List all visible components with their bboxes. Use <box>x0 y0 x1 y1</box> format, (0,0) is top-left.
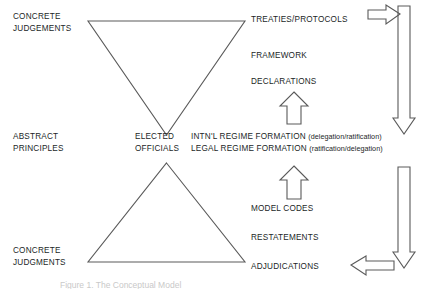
figure-canvas: CONCRETE JUDGEMENTS ABSTRACT PRINCIPLES … <box>0 0 428 289</box>
left-label-abstract-principles: ABSTRACT PRINCIPLES <box>13 131 64 154</box>
left-label-concrete-judgments-line1: CONCRETE <box>13 245 66 257</box>
figure-caption: Figure 1. The Conceptual Model <box>60 280 181 289</box>
middle-row-intnl-regime-formation: INTN'L REGIME FORMATION (delegation/rati… <box>191 131 382 143</box>
left-label-concrete-judgements: CONCRETE JUDGEMENTS <box>13 11 71 34</box>
right-item-treaties-protocols: TREATIES/PROTOCOLS <box>251 14 348 25</box>
lower-upright-triangle <box>88 163 245 262</box>
left-label-abstract-principles-line1: ABSTRACT <box>13 131 64 143</box>
left-label-concrete-judgments-line2: JUDGMENTS <box>13 257 66 269</box>
top-right-horizontal-right-arrow-icon <box>368 5 400 24</box>
left-label-concrete-judgements-line2: JUDGEMENTS <box>13 23 71 35</box>
right-lower-vertical-down-arrow-icon <box>393 167 415 268</box>
middle-row-legal-regime-formation-paren: (ratification/delegation) <box>309 144 382 153</box>
middle-row-intnl-regime-formation-label: INTN'L REGIME FORMATION <box>191 132 306 141</box>
left-label-abstract-principles-line2: PRINCIPLES <box>13 143 64 155</box>
right-item-model-codes: MODEL CODES <box>251 203 313 214</box>
right-item-restatements: RESTATEMENTS <box>251 232 319 243</box>
left-label-concrete-judgements-line1: CONCRETE <box>13 11 71 23</box>
right-item-framework: FRAMEWORK <box>251 50 307 61</box>
center-label-elected-officials-line2: OFFICIALS <box>135 143 179 155</box>
right-item-adjudications: ADJUDICATIONS <box>251 261 319 272</box>
upper-inverted-triangle <box>88 21 245 135</box>
center-label-elected-officials-line1: ELECTED <box>135 131 179 143</box>
right-upper-vertical-down-arrow-icon <box>393 6 415 134</box>
middle-row-legal-regime-formation: LEGAL REGIME FORMATION (ratification/del… <box>191 143 383 155</box>
center-label-elected-officials: ELECTED OFFICIALS <box>135 131 179 154</box>
left-label-concrete-judgments: CONCRETE JUDGMENTS <box>13 245 66 268</box>
right-item-declarations: DECLARATIONS <box>251 76 316 87</box>
middle-row-intnl-regime-formation-paren: (delegation/ratification) <box>308 132 381 141</box>
bottom-right-horizontal-left-arrow-icon <box>351 256 394 275</box>
center-upper-up-arrow-icon <box>280 92 308 124</box>
middle-row-legal-regime-formation-label: LEGAL REGIME FORMATION <box>191 144 307 153</box>
center-lower-up-arrow-icon <box>280 166 308 199</box>
